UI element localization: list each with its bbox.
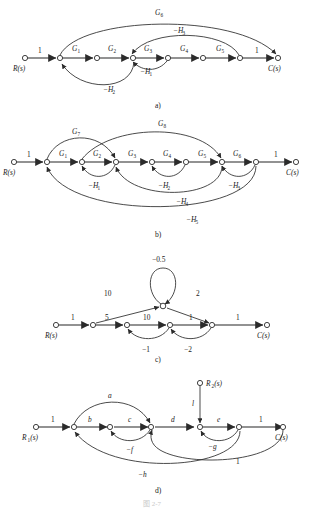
panel-b-edge-h1: [82, 165, 115, 176]
panel-d-gain-c: c: [128, 415, 132, 424]
svg-text:4: 4: [168, 153, 171, 159]
panel-a-output-label: C(s): [268, 64, 281, 73]
panel-b-node-4: [113, 159, 118, 164]
panel-c-gain-neg1: −1: [142, 345, 150, 354]
panel-c-gain-self-loop: −0.5: [152, 255, 166, 264]
panel-c-node-input: [53, 322, 58, 327]
panel-a-gain-g5: G 5: [216, 44, 224, 54]
panel-d-node-3: [107, 424, 112, 429]
panel-d-gain-d: d: [171, 415, 175, 424]
panel-c-gain-neg2: −2: [184, 345, 192, 354]
panel-a-gain-h3: −H 3: [173, 26, 186, 36]
panel-a-node-input: [22, 55, 27, 60]
panel-b-gain-g8: G 8: [158, 119, 166, 129]
svg-text:1: 1: [64, 153, 67, 159]
panel-a-gain-h1: −H 1: [140, 67, 153, 77]
svg-text:3: 3: [238, 185, 241, 191]
panel-a-gain-g1: G 1: [72, 44, 80, 54]
panel-d-input2-label: R 2 (s): [205, 379, 223, 389]
panel-c-node-4: [167, 322, 172, 327]
panel-b-node-3: [79, 159, 84, 164]
panel-d-caption: d): [155, 486, 162, 495]
panel-d-gain-e: e: [217, 415, 221, 424]
panel-a-edge-h2: [62, 62, 134, 85]
panel-d-edge-fb-one: [151, 430, 283, 460]
panel-a-gain-output: 1: [255, 46, 259, 55]
panel-b-node-7: [219, 159, 224, 164]
panel-c-node-loop: [160, 303, 166, 309]
panel-d-edge-a: [74, 402, 150, 424]
panel-a-gain-h2: −H 2: [103, 85, 116, 95]
svg-text:2: 2: [168, 185, 171, 191]
panel-b-node-5: [149, 159, 154, 164]
panel-c-gain-down: 2: [196, 289, 200, 298]
panel-a-node-3: [94, 55, 99, 60]
svg-text:R: R: [21, 433, 27, 442]
panel-b-gain-g6: G 6: [233, 149, 241, 159]
panel-a-gain-g2: G 2: [108, 44, 116, 54]
svg-text:5: 5: [196, 219, 199, 225]
panel-d-gain-b: b: [88, 415, 92, 424]
panel-b-gain-h5: −H 5: [186, 215, 199, 225]
panel-a-input-label: R(s): [12, 64, 26, 73]
panel-c-node-5: [209, 322, 214, 327]
panel-c-gain-up: 10: [104, 289, 112, 298]
figure-caption: 图 2-7: [143, 500, 162, 508]
panel-d-gain-h: −h: [138, 470, 147, 479]
panel-d-gain-input: 1: [51, 415, 55, 424]
panel-d-gain-output: 1: [259, 415, 263, 424]
panel-c-edge-down: [167, 308, 209, 323]
panel-c-node-2: [90, 322, 95, 327]
panel-b-output-label: C(s): [286, 168, 299, 177]
panel-b-gain-h3: −H 3: [228, 181, 241, 191]
svg-text:2: 2: [113, 48, 116, 54]
panel-d-gain-l: l: [192, 399, 194, 408]
panel-d-edge-f: [111, 430, 150, 441]
sfg-canvas: R(s) C(s) 1 1 G 1 G 2 G 3 G 4 G 5 G 6 −H: [0, 0, 324, 508]
panel-b-gain-g2: G 2: [93, 149, 101, 159]
svg-text:5: 5: [221, 48, 224, 54]
panel-d-node-6: [236, 424, 241, 429]
panel-c-input-label: R(s): [44, 331, 58, 340]
panel-b-gain-h2: −H 2: [158, 181, 171, 191]
svg-text:1: 1: [98, 185, 101, 191]
panel-b-node-8: [253, 159, 258, 164]
svg-text:6: 6: [238, 153, 241, 159]
panel-b-input-label: R(s): [2, 168, 16, 177]
panel-b-gain-g7: G 7: [72, 127, 80, 137]
panel-a-gain-g3: G 3: [144, 44, 152, 54]
panel-d-node-4: [148, 424, 153, 429]
svg-text:R: R: [205, 379, 211, 388]
panel-c-node-output: [264, 322, 269, 327]
panel-b-gain-h1: −H 1: [88, 181, 101, 191]
svg-text:(s): (s): [214, 379, 222, 388]
svg-text:5: 5: [203, 153, 206, 159]
panel-a-node-output: [275, 55, 280, 60]
panel-a-node-2: [57, 55, 62, 60]
panel-c-edge-neg2: [171, 328, 211, 339]
svg-text:7: 7: [77, 131, 80, 137]
panel-c-edge-neg1: [128, 328, 169, 339]
panel-a-edge-g6: [60, 24, 276, 55]
panel-b: R(s) C(s) 1 1 G 1 G 2 G 3 G 4 G 5 G 6 G: [2, 119, 299, 239]
panel-b-gain-h4: −H 4: [176, 197, 189, 207]
panel-b-gain-g5: G 5: [198, 149, 206, 159]
panel-b-node-2: [44, 159, 49, 164]
panel-d-node-input1: [33, 424, 38, 429]
panel-d-node-2: [71, 424, 76, 429]
svg-text:(s): (s): [30, 433, 38, 442]
panel-c: R(s) C(s) 1 5 10 1 1 10 2 −0.5 −1 −2 c): [44, 255, 270, 364]
panel-d-node-input2: [197, 380, 202, 385]
svg-text:3: 3: [149, 48, 152, 54]
panel-d-edge-g: [201, 430, 238, 441]
panel-b-edge-h3: [222, 165, 255, 176]
panel-b-node-output: [293, 159, 298, 164]
panel-b-node-input: [11, 159, 16, 164]
panel-c-edge-self-loop: [150, 268, 175, 304]
panel-b-caption: b): [155, 230, 162, 239]
panel-c-node-3: [124, 322, 129, 327]
svg-text:1: 1: [150, 71, 153, 77]
panel-d-output-label: C(s): [275, 433, 288, 442]
panel-d-gain-g: −g: [208, 442, 217, 451]
svg-text:4: 4: [185, 48, 188, 54]
